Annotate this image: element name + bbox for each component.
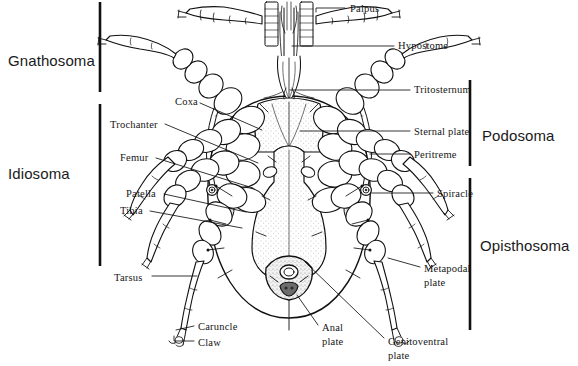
part-label-tibia: Tibia — [120, 205, 143, 216]
part-label-tarsus: Tarsus — [114, 272, 142, 283]
part-label-palpus: Palpus — [350, 3, 379, 14]
gnathosoma-group — [277, 2, 300, 102]
part-label-claw: Claw — [198, 337, 221, 348]
part-label-genitoventral-plate: Genitoventral plate — [388, 335, 448, 363]
figure-canvas: Gnathosoma Idiosoma Podosoma Opisthosoma… — [0, 0, 578, 366]
part-label-caruncle: Caruncle — [198, 321, 238, 332]
leader-metapodal — [388, 258, 420, 267]
part-label-tritosternum: Tritosternum — [414, 84, 471, 95]
part-label-sternal-plate: Sternal plate — [414, 126, 469, 137]
part-label-hypostome: Hypostome — [398, 40, 448, 51]
part-label-femur: Femur — [120, 152, 148, 163]
part-label-anal-plate: Anal plate — [322, 321, 343, 349]
part-label-spiracle: Spiracle — [437, 188, 473, 199]
part-label-trochanter: Trochanter — [110, 119, 158, 130]
region-label-opisthosoma: Opisthosoma — [480, 237, 569, 254]
region-label-idiosoma: Idiosoma — [8, 165, 70, 182]
part-label-coxa: Coxa — [175, 96, 198, 107]
region-label-podosoma: Podosoma — [482, 127, 555, 144]
palpal-bases — [265, 2, 313, 46]
region-label-gnathosoma: Gnathosoma — [8, 52, 95, 69]
part-label-metapodal-plate: Metapodal plate — [424, 262, 471, 290]
part-label-peritreme: Peritreme — [414, 149, 457, 160]
part-label-patella: Patella — [126, 188, 156, 199]
palpus-left — [178, 7, 262, 24]
leg-I-left — [98, 35, 247, 119]
